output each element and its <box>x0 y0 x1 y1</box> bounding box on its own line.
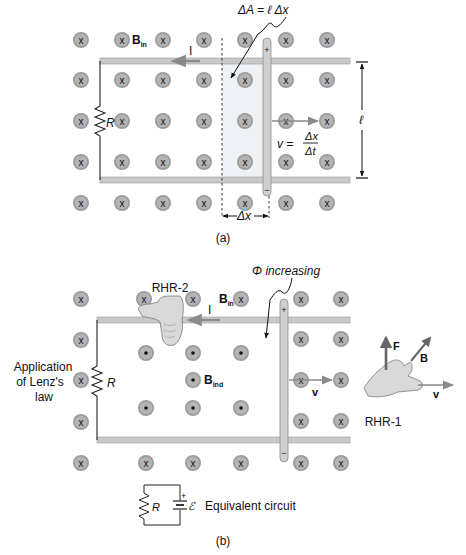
equivalent-resistor-label: R <box>152 501 160 513</box>
caption-a: (a) <box>216 231 231 245</box>
top-rail-a <box>100 58 350 64</box>
moving-rod-b <box>280 299 288 462</box>
bottom-rail-b <box>97 437 350 443</box>
resistor-a <box>95 61 105 180</box>
rod-plus-b: + <box>281 305 286 315</box>
delta-x-label: Δx <box>236 209 252 223</box>
rhr1-hand-icon <box>364 360 423 397</box>
lenz-label-line1: Application <box>14 360 73 374</box>
panel-b: R Application of Lenz's law RHR-2 I Bin … <box>14 264 453 548</box>
rhr1-label: RHR-1 <box>365 415 402 429</box>
rhr2-label: RHR-2 <box>152 281 189 295</box>
rod-minus-b: − <box>281 448 286 458</box>
rhr1-v-label: v <box>433 388 440 400</box>
caption-b: (b) <box>216 534 231 548</box>
force-label: F <box>393 340 400 352</box>
rod-minus-a: − <box>264 185 269 195</box>
resistor-label-b: R <box>107 376 116 390</box>
length-label: ℓ <box>359 113 364 127</box>
panel-a: R I Bin + − ΔA = ℓ Δx v = Δx Δt ℓ Δx (a) <box>73 3 368 245</box>
current-label-a: I <box>189 44 192 58</box>
battery-plus-label: + <box>181 491 186 501</box>
rod-plus-a: + <box>264 45 269 55</box>
rhr1-b-label: B <box>420 352 428 364</box>
current-label-b: I <box>208 303 211 317</box>
velocity-lhs-a: v = <box>277 137 293 151</box>
b-field-label-b: Bin <box>219 292 234 307</box>
lenz-label-line3: law <box>35 390 53 404</box>
faraday-law-diagram: x R I Bin + <box>0 0 466 555</box>
velocity-numerator: Δx <box>304 130 318 142</box>
b-field-label-a: Bin <box>132 33 147 48</box>
velocity-denominator: Δt <box>304 145 316 157</box>
flux-increasing-label: Φ increasing <box>252 264 320 278</box>
lenz-label-line2: of Lenz's <box>16 375 64 389</box>
resistor-label-a: R <box>106 116 115 130</box>
equivalent-circuit: R + ℰ Equivalent circuit <box>139 485 296 525</box>
moving-rod-a <box>263 38 271 196</box>
equivalent-circuit-label: Equivalent circuit <box>205 499 296 513</box>
delta-area-label: ΔA = ℓ Δx <box>237 3 290 17</box>
emf-label: ℰ <box>188 500 196 512</box>
bottom-rail-a <box>100 177 350 183</box>
b-induced-label: Bind <box>204 373 223 388</box>
resistor-b <box>92 320 102 440</box>
top-rail-b <box>97 317 350 323</box>
velocity-label-b: v <box>312 386 319 398</box>
